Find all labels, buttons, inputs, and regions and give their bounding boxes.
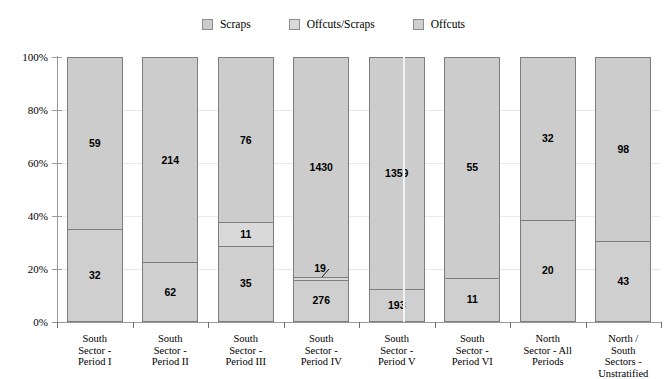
bar-segment-scraps[interactable]: 1359 (369, 57, 425, 289)
x-axis-tick (57, 322, 58, 328)
x-axis-category-labels: SouthSector -Period ISouthSector -Period… (57, 333, 661, 379)
bar-segment-scraps[interactable]: 32 (520, 57, 576, 220)
x-axis-category-label-3: SouthSector -Period III (208, 333, 284, 368)
x-axis-tick (586, 322, 587, 328)
y-axis-tick-label-holder: 80% (6, 110, 48, 111)
bar-segment-offcuts[interactable]: 32 (67, 229, 123, 322)
bar-value-label: 32 (542, 133, 554, 144)
x-axis-category-label-8: North /SouthSectors -Unstratified (586, 333, 662, 379)
bar-segment-offcuts[interactable]: 35 (218, 246, 274, 322)
category-label-line: South (586, 345, 662, 357)
bar-5[interactable]: 1359193 (369, 57, 425, 322)
bar-value-label: 276 (312, 295, 330, 306)
x-axis-category-label-5: SouthSector -Period V (359, 333, 435, 368)
plot-area: 5932214627611351430192761359193551132209… (57, 57, 661, 322)
bar-7[interactable]: 3220 (520, 57, 576, 322)
x-axis-category-label-4: SouthSector -Period IV (284, 333, 360, 368)
legend-label: Offcuts/Scraps (307, 18, 375, 30)
bar-value-label: 19 (314, 263, 326, 274)
bar-segment-offcuts[interactable]: 11 (444, 278, 500, 322)
category-label-line: Unstratified (586, 368, 662, 379)
y-axis-tick-label: 40% (12, 211, 48, 222)
bar-segment-offcuts[interactable]: 62 (142, 262, 198, 322)
bar-value-label: 11 (240, 229, 251, 240)
x-axis-tick (435, 322, 436, 328)
bar-segment-offcuts-scraps[interactable]: 11 (218, 222, 274, 246)
category-label-line: South (57, 333, 133, 345)
bar-value-label: 59 (89, 138, 101, 149)
y-axis-tick-label: 80% (12, 105, 48, 116)
x-axis-ticks (0, 322, 667, 328)
bar-value-label: 11 (467, 294, 478, 305)
category-label-line: Period V (359, 356, 435, 368)
legend-swatch-icon (289, 19, 300, 30)
category-label-line: Period VI (435, 356, 511, 368)
category-label-line: Period IV (284, 356, 360, 368)
x-axis-category-label-2: SouthSector -Period II (133, 333, 209, 368)
category-label-line: Sector - All (510, 345, 586, 357)
bar-value-label: 1430 (310, 162, 333, 173)
category-label-line: Sector - (359, 345, 435, 357)
bar-segment-offcuts[interactable]: 193 (369, 289, 425, 322)
legend-entry-offcuts-scraps: Offcuts/Scraps (289, 18, 375, 30)
bar-value-label: 35 (240, 278, 252, 289)
bar-segment-scraps[interactable]: 76 (218, 57, 274, 222)
bar-highlight-stripe (403, 57, 405, 322)
category-label-line: North (510, 333, 586, 345)
bar-segment-scraps[interactable]: 59 (67, 57, 123, 229)
x-axis-category-label-6: SouthSector -Period VI (435, 333, 511, 368)
category-label-line: Period III (208, 356, 284, 368)
x-axis-tick (284, 322, 285, 328)
category-label-line: Period I (57, 356, 133, 368)
category-label-line: Sector - (435, 345, 511, 357)
bar-1[interactable]: 5932 (67, 57, 123, 322)
bar-value-label: 32 (89, 270, 101, 281)
bar-segment-scraps[interactable]: 98 (595, 57, 651, 241)
x-axis-tick (661, 322, 662, 328)
bar-2[interactable]: 21462 (142, 57, 198, 322)
bar-value-label: 76 (240, 135, 252, 146)
category-label-line: Sector - (284, 345, 360, 357)
category-label-line: Periods (510, 356, 586, 368)
bar-6[interactable]: 5511 (444, 57, 500, 322)
y-axis-tick-label-holder: 100% (6, 57, 48, 58)
bar-value-label: 62 (164, 287, 176, 298)
bar-8[interactable]: 9843 (595, 57, 651, 322)
bar-value-label: 98 (617, 144, 629, 155)
y-axis-tick-label-holder: 40% (6, 216, 48, 217)
x-axis-tick (133, 322, 134, 328)
category-label-line: South (284, 333, 360, 345)
bar-value-label: 43 (617, 276, 629, 287)
bar-segment-offcuts[interactable]: 43 (595, 241, 651, 322)
bar-segment-scraps[interactable]: 55 (444, 57, 500, 278)
category-label-line: Period II (133, 356, 209, 368)
legend-label: Scraps (220, 18, 251, 30)
legend-entry-scraps: Scraps (202, 18, 251, 30)
y-axis-tick-label: 60% (12, 158, 48, 169)
legend-swatch-icon (202, 19, 213, 30)
x-axis-category-label-7: NorthSector - AllPeriods (510, 333, 586, 368)
bar-4[interactable]: 143019276 (293, 57, 349, 322)
category-label-line: Sectors - (586, 356, 662, 368)
category-label-line: South (359, 333, 435, 345)
bar-value-label: 214 (161, 155, 179, 166)
category-label-line: Sector - (208, 345, 284, 357)
category-label-line: North / (586, 333, 662, 345)
bar-value-label: 55 (466, 162, 478, 173)
x-axis-tick (359, 322, 360, 328)
bar-segment-offcuts[interactable]: 20 (520, 220, 576, 322)
bar-segment-offcuts[interactable]: 276 (293, 280, 349, 322)
legend-swatch-icon (413, 19, 424, 30)
x-axis-tick (208, 322, 209, 328)
bar-segment-scraps[interactable]: 1430 (293, 57, 349, 277)
bar-3[interactable]: 761135 (218, 57, 274, 322)
chart-legend: ScrapsOffcuts/ScrapsOffcuts (0, 18, 667, 30)
y-axis-tick-label: 100% (12, 52, 48, 63)
category-label-line: Sector - (133, 345, 209, 357)
y-axis-tick-label: 20% (12, 264, 48, 275)
y-axis-tick-label-holder: 20% (6, 269, 48, 270)
y-axis-tick-label-holder: 60% (6, 163, 48, 164)
bar-segment-scraps[interactable]: 214 (142, 57, 198, 262)
x-axis-category-label-1: SouthSector -Period I (57, 333, 133, 368)
category-label-line: South (208, 333, 284, 345)
